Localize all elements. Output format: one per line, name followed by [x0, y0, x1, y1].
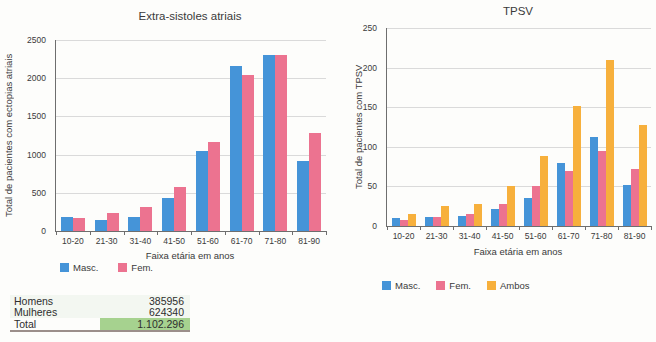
bar-group — [56, 40, 90, 231]
x-category-label: 61-70 — [225, 236, 259, 246]
bar-groups — [56, 40, 326, 231]
x-category-labels: 10-2021-3031-4041-5051-6061-7071-8081-90 — [56, 236, 326, 246]
x-category-label: 21-30 — [90, 236, 124, 246]
bar-masc-21-30 — [95, 220, 107, 231]
x-category-label: 71-80 — [585, 231, 618, 241]
y-tick-label: 2500 — [27, 35, 46, 45]
bar-ambos-21-30 — [441, 206, 449, 226]
bar-fem-51-60 — [532, 186, 540, 226]
x-axis-tick — [651, 226, 652, 230]
x-axis-tick — [585, 226, 586, 230]
bar-masc-51-60 — [524, 198, 532, 226]
bar-group — [157, 40, 191, 231]
legend-swatch-fem — [436, 281, 445, 290]
x-axis-tick — [124, 231, 125, 235]
x-category-label: 31-40 — [453, 231, 486, 241]
bar-masc-10-20 — [61, 217, 73, 231]
bar-fem-71-80 — [598, 151, 606, 226]
y-tick-label: 1500 — [27, 111, 46, 121]
x-axis-ticks — [56, 231, 326, 235]
bar-masc-81-90 — [623, 185, 631, 226]
legend: Masc.Fem.Ambos — [382, 280, 530, 291]
page: Extra-sistoles atriais Total de paciente… — [0, 0, 656, 342]
y-tick-label: 100 — [363, 142, 377, 152]
row-value: 385956 — [100, 295, 190, 307]
plot-area: 10-2021-3031-4041-5051-6061-7071-8081-90 — [55, 40, 326, 232]
y-tick-label: 0 — [41, 226, 46, 236]
legend-swatch-masc — [60, 263, 69, 272]
total-highlight-cell: 1.102.296 — [100, 318, 190, 330]
bar-group — [191, 40, 225, 231]
bar-fem-31-40 — [466, 214, 474, 226]
bar-fem-21-30 — [433, 217, 441, 227]
bar-fem-61-70 — [565, 171, 573, 226]
summary-table: Homens 385956 Mulheres 624340 Total 1.10… — [10, 295, 190, 332]
row-label: Homens — [10, 295, 100, 307]
bar-group — [225, 40, 259, 231]
y-tick-label: 500 — [32, 188, 46, 198]
legend-label: Fem. — [449, 280, 471, 291]
chart-tpsv: TPSV Total de pacientes com TPSV 0501001… — [330, 0, 656, 278]
x-category-label: 71-80 — [259, 236, 293, 246]
x-axis-tick — [519, 226, 520, 230]
x-axis-ticks — [387, 226, 651, 230]
legend-item-masc: Masc. — [60, 262, 98, 273]
legend-label: Masc. — [395, 280, 420, 291]
y-axis-tick-labels: 05001000150020002500 — [0, 40, 50, 231]
x-category-label: 10-20 — [56, 236, 90, 246]
bar-ambos-51-60 — [540, 156, 548, 226]
y-tick-label: 0 — [372, 221, 377, 231]
legend-label: Fem. — [131, 262, 153, 273]
y-axis-tick-labels: 050100150200250 — [338, 28, 381, 226]
x-category-label: 10-20 — [387, 231, 420, 241]
bar-fem-10-20 — [73, 218, 85, 231]
x-axis-tick — [259, 231, 260, 235]
table-row: Mulheres 624340 — [10, 307, 190, 319]
table-row: Homens 385956 — [10, 295, 190, 307]
table-row-total: Total 1.102.296 — [10, 318, 190, 332]
bar-group — [90, 40, 124, 231]
bar-group — [387, 28, 420, 226]
bar-group — [292, 40, 326, 231]
bar-ambos-61-70 — [573, 106, 581, 226]
x-axis-tick — [453, 226, 454, 230]
bar-group — [618, 28, 651, 226]
bar-masc-31-40 — [128, 217, 140, 231]
bar-fem-41-50 — [499, 204, 507, 226]
bar-ambos-31-40 — [474, 204, 482, 226]
bar-masc-71-80 — [263, 55, 275, 231]
x-category-label: 41-50 — [486, 231, 519, 241]
bar-fem-41-50 — [174, 187, 186, 231]
legend-swatch-ambos — [487, 281, 496, 290]
y-tick-label: 50 — [368, 181, 377, 191]
bar-group — [519, 28, 552, 226]
bar-masc-31-40 — [458, 216, 466, 226]
legend-label: Masc. — [73, 262, 98, 273]
y-tick-label: 250 — [363, 23, 377, 33]
bar-fem-81-90 — [309, 133, 321, 231]
bar-groups — [387, 28, 651, 226]
bar-ambos-81-90 — [639, 125, 647, 226]
row-value: 624340 — [100, 306, 190, 318]
bar-group — [259, 40, 293, 231]
bar-fem-21-30 — [107, 213, 119, 231]
legend-item-masc: Masc. — [382, 280, 420, 291]
bar-masc-51-60 — [196, 151, 208, 231]
bar-group — [124, 40, 158, 231]
y-tick-label: 150 — [363, 102, 377, 112]
chart-title: Extra-sistoles atriais — [55, 10, 325, 22]
x-category-label: 61-70 — [552, 231, 585, 241]
x-axis-tick — [90, 231, 91, 235]
row-label: Total — [10, 318, 100, 330]
bar-masc-41-50 — [491, 209, 499, 226]
bar-masc-41-50 — [162, 198, 174, 231]
x-axis-tick — [225, 231, 226, 235]
x-category-label: 51-60 — [191, 236, 225, 246]
x-axis-tick — [292, 231, 293, 235]
x-category-label: 31-40 — [124, 236, 158, 246]
bar-ambos-41-50 — [507, 186, 515, 226]
bar-fem-51-60 — [208, 142, 220, 231]
bar-group — [420, 28, 453, 226]
chart-title: TPSV — [386, 5, 650, 17]
legend: Masc.Fem. — [60, 262, 153, 273]
